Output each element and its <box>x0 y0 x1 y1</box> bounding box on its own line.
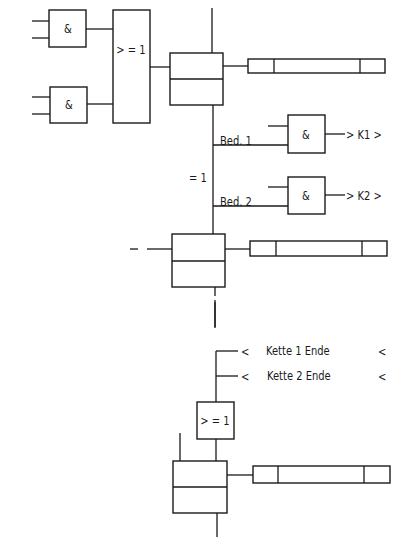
output-k2-label: > K2 > <box>346 189 382 202</box>
condition-2-label: Bed. 2 <box>220 195 252 208</box>
and-gate-k2-symbol: & <box>302 189 310 202</box>
or-gate-bottom-symbol: > = 1 <box>200 414 229 427</box>
and-gate-1-symbol: & <box>64 22 72 35</box>
and-gate-2-symbol: & <box>65 98 73 111</box>
or-gate-top <box>113 10 150 123</box>
chain-end-1-suffix: < <box>378 345 386 358</box>
and-gate-1 <box>32 10 113 47</box>
action-bar-1 <box>248 59 385 73</box>
diagram-lines <box>0 0 406 549</box>
branch-label: = 1 <box>189 171 207 184</box>
chain-end-1-label: Kette 1 Ende <box>266 344 330 357</box>
action-bar-2 <box>250 241 387 256</box>
condition-1-label: Bed. 1 <box>220 134 252 147</box>
action-bar-3 <box>253 466 390 483</box>
diagram-canvas: & & > = 1 Bed. 1 & > K1 > = 1 Bed. 2 & >… <box>0 0 406 549</box>
step-3-box <box>173 461 227 513</box>
step-2-box <box>172 234 225 287</box>
step-1-box <box>170 53 223 105</box>
and-gate-k1-symbol: & <box>302 128 310 141</box>
chain-end-2-suffix: < <box>378 370 386 383</box>
chain-end-2-label: Kette 2 Ende <box>267 369 331 382</box>
chain-end-1-prefix: < <box>241 345 249 358</box>
chain-end-2-prefix: < <box>241 370 249 383</box>
or-gate-top-symbol: > = 1 <box>116 43 145 56</box>
output-k1-label: > K1 > <box>346 128 382 141</box>
